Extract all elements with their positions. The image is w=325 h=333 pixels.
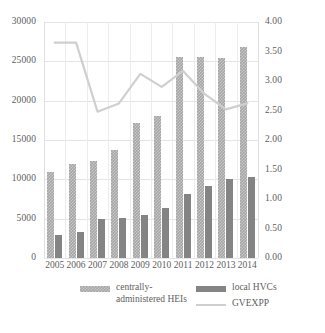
x-axis-tick: 2012 — [194, 260, 215, 271]
right-axis-tick: 2.50 — [265, 106, 282, 116]
gvexpp-line-series — [44, 22, 258, 258]
legend-swatch-icon-gvexpp — [196, 304, 226, 306]
legend-column-left: centrally-administered HEIs — [80, 282, 190, 309]
legend-swatch-icon-heis — [80, 286, 110, 292]
x-axis-tick: 2007 — [87, 260, 108, 271]
left-axis-tick: 20000 — [12, 96, 36, 106]
legend-column-right: local HVCs GVEXPP — [196, 282, 321, 313]
left-axis-labels: 050001000015000200002500030000 — [0, 0, 40, 280]
axis-line — [258, 22, 259, 258]
x-axis-labels: 2005200620072008200920102011201220132014 — [44, 260, 258, 276]
right-axis-tick: 2.00 — [265, 135, 282, 145]
plot-area — [44, 22, 258, 258]
x-axis-tick: 2011 — [172, 260, 193, 271]
x-axis-tick: 2009 — [130, 260, 151, 271]
x-axis-tick: 2014 — [237, 260, 258, 271]
x-axis-tick: 2010 — [151, 260, 172, 271]
legend-swatch-icon-hvcs — [196, 286, 226, 292]
legend-label-hvcs: local HVCs — [232, 282, 277, 294]
left-axis-tick: 5000 — [17, 214, 36, 224]
left-axis-tick: 10000 — [12, 174, 36, 184]
chart-container: 050001000015000200002500030000 0.000.501… — [0, 0, 325, 333]
chart-legend: centrally-administered HEIs local HVCs G… — [0, 282, 325, 333]
legend-item-gvexpp: GVEXPP — [196, 298, 321, 310]
right-axis-tick: 0.00 — [265, 253, 282, 263]
right-axis-tick: 1.00 — [265, 194, 282, 204]
x-axis-tick: 2008 — [108, 260, 129, 271]
legend-item-local-hvcs: local HVCs — [196, 282, 321, 294]
right-axis-tick: 0.50 — [265, 224, 282, 234]
legend-label-gvexpp: GVEXPP — [232, 298, 269, 310]
legend-item-centrally-administered-heis: centrally-administered HEIs — [80, 282, 190, 305]
x-axis-tick: 2013 — [215, 260, 236, 271]
right-axis-tick: 4.00 — [265, 17, 282, 27]
left-axis-tick: 30000 — [12, 17, 36, 27]
left-axis-tick: 0 — [31, 253, 36, 263]
left-axis-tick: 15000 — [12, 135, 36, 145]
right-axis-labels: 0.000.501.001.502.002.503.003.504.00 — [260, 0, 322, 280]
right-axis-tick: 1.50 — [265, 165, 282, 175]
x-axis-tick: 2006 — [65, 260, 86, 271]
gridline — [44, 258, 258, 259]
right-axis-tick: 3.50 — [265, 47, 282, 57]
left-axis-tick: 25000 — [12, 56, 36, 66]
x-axis-tick: 2005 — [44, 260, 65, 271]
legend-label-heis: centrally-administered HEIs — [116, 282, 190, 305]
right-axis-tick: 3.00 — [265, 76, 282, 86]
